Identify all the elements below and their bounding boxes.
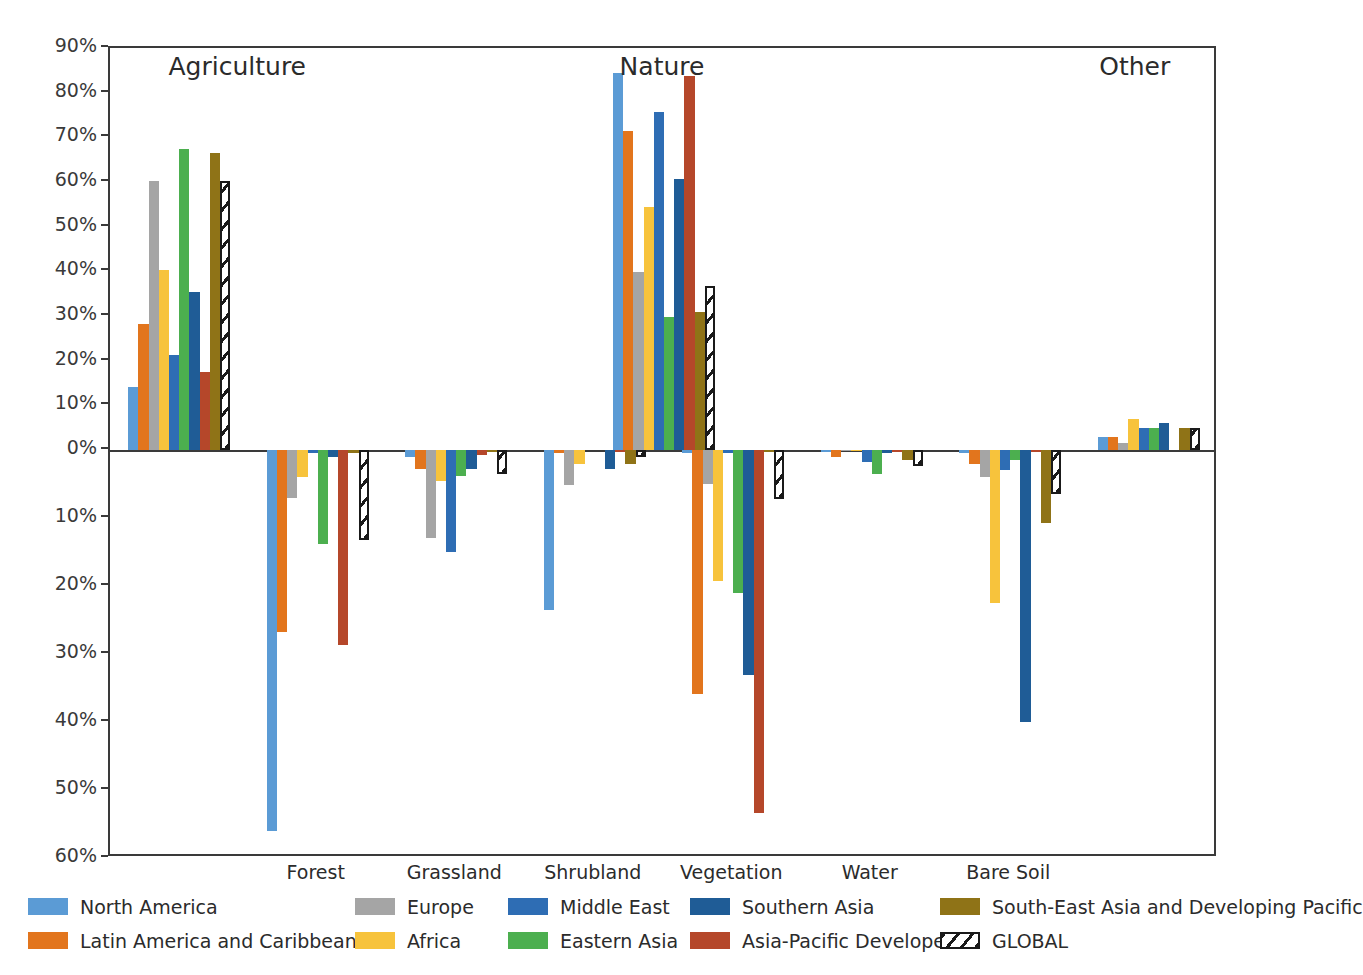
bar-shrubland-europe (564, 450, 574, 485)
bar-forest-asia-pacific-developed (338, 450, 348, 645)
legend-label: GLOBAL (992, 928, 1068, 954)
bar-water-southern-asia (882, 450, 892, 453)
y-tick-label-pos-80: 80% (55, 82, 108, 98)
bar-water-global (913, 450, 923, 466)
y-tick-label-pos-40: 40% (55, 260, 108, 276)
y-tick-mark-pos-10 (101, 402, 108, 404)
y-tick-label-pos-70: 70% (55, 126, 108, 142)
legend-swatch-icon (940, 898, 980, 915)
bar-grassland-africa (436, 450, 446, 481)
bar-agriculture-north-america (128, 387, 138, 450)
bar-nature-eastern-asia (664, 317, 674, 450)
bar-nature-north-america (613, 73, 623, 450)
bar-bare-soil-africa (990, 450, 1000, 603)
x-tick-label-shrubland: Shrubland (523, 861, 663, 883)
bar-nature-europe (633, 272, 643, 450)
y-axis: 0%10%20%30%40%50%60%70%80%90%10%20%30%40… (0, 0, 108, 975)
y-tick-mark-neg-20 (101, 583, 108, 585)
bar-nature-latin-america-and-caribbean (623, 131, 633, 450)
legend-swatch-icon (28, 898, 68, 915)
y-tick-label-pos-10: 10% (55, 394, 108, 410)
y-tick-mark-pos-20 (101, 358, 108, 360)
group-title-agriculture: Agriculture (117, 52, 357, 81)
y-tick-mark-pos-90 (101, 45, 108, 47)
legend-swatch-icon (940, 932, 980, 949)
bar-vegetation-asia-pacific-developed (754, 450, 764, 813)
y-tick-mark-pos-30 (101, 313, 108, 315)
y-tick-mark-neg-60 (101, 855, 108, 857)
bar-vegetation-global (774, 450, 784, 499)
bar-shrubland-south-east-asia-and-developing-pacific (625, 450, 635, 464)
legend-label: Latin America and Caribbean (80, 928, 357, 954)
bar-nature-south-east-asia-and-developing-pacific (695, 312, 705, 450)
bar-vegetation-europe (703, 450, 713, 484)
bar-forest-north-america (267, 450, 277, 831)
y-tick-label-neg-40: 40% (55, 711, 108, 727)
bar-water-europe (841, 450, 851, 451)
bar-shrubland-north-america (544, 450, 554, 610)
bar-other-southern-asia (1159, 423, 1169, 450)
bar-water-eastern-asia (872, 450, 882, 474)
y-tick-label-neg-20: 20% (55, 575, 108, 591)
bar-vegetation-latin-america-and-caribbean (692, 450, 702, 694)
bar-agriculture-global (220, 181, 230, 450)
y-tick-mark-pos-80 (101, 90, 108, 92)
bar-grassland-middle-east (446, 450, 456, 552)
y-tick-mark-pos-50 (101, 224, 108, 226)
legend-swatch-icon (355, 898, 395, 915)
bar-forest-europe (287, 450, 297, 498)
y-tick-mark-pos-40 (101, 268, 108, 270)
y-tick-label-pos-60: 60% (55, 171, 108, 187)
bar-grassland-latin-america-and-caribbean (415, 450, 425, 469)
plot-area (108, 46, 1216, 856)
legend-swatch-icon (508, 898, 548, 915)
legend-swatch-icon (355, 932, 395, 949)
bar-bare-soil-global (1051, 450, 1061, 494)
bar-bare-soil-middle-east (1000, 450, 1010, 470)
bar-nature-africa (644, 207, 654, 450)
y-tick-label-neg-60: 60% (55, 847, 108, 863)
y-tick-label-pos-20: 20% (55, 350, 108, 366)
bar-grassland-south-east-asia-and-developing-pacific (487, 450, 497, 452)
bar-shrubland-africa (574, 450, 584, 464)
y-tick-mark-pos-70 (101, 134, 108, 136)
group-title-other: Other (1015, 52, 1255, 81)
bar-grassland-southern-asia (466, 450, 476, 469)
y-tick-mark-neg-40 (101, 719, 108, 721)
bar-shrubland-global (636, 450, 646, 457)
y-tick-mark-pos-60 (101, 179, 108, 181)
bar-other-middle-east (1139, 428, 1149, 450)
y-tick-mark-neg-50 (101, 787, 108, 789)
bar-other-global (1190, 428, 1200, 450)
bar-other-latin-america-and-caribbean (1108, 437, 1118, 450)
bar-agriculture-southern-asia (189, 292, 199, 450)
y-tick-label-neg-10: 10% (55, 507, 108, 523)
y-tick-label-pos-30: 30% (55, 305, 108, 321)
y-tick-label-pos-50: 50% (55, 216, 108, 232)
x-tick-label-forest: Forest (246, 861, 386, 883)
bar-nature-global (705, 286, 715, 450)
bar-bare-soil-south-east-asia-and-developing-pacific (1041, 450, 1051, 523)
bar-other-south-east-asia-and-developing-pacific (1179, 428, 1189, 450)
bar-forest-latin-america-and-caribbean (277, 450, 287, 632)
bar-bare-soil-europe (980, 450, 990, 477)
legend-label: Europe (407, 894, 474, 920)
bar-water-africa (851, 450, 861, 451)
legend-label: Eastern Asia (560, 928, 678, 954)
bar-agriculture-asia-pacific-developed (200, 372, 210, 450)
y-tick-label-pos-90: 90% (55, 37, 108, 53)
legend-label: North America (80, 894, 218, 920)
bar-grassland-europe (426, 450, 436, 538)
x-tick-label-water: Water (800, 861, 940, 883)
bar-other-africa (1128, 419, 1138, 450)
bar-bare-soil-asia-pacific-developed (1031, 450, 1041, 452)
bar-nature-middle-east (654, 112, 664, 450)
legend-label: Africa (407, 928, 461, 954)
bar-shrubland-asia-pacific-developed (615, 450, 625, 452)
bar-grassland-global (497, 450, 507, 474)
legend-label: South-East Asia and Developing Pacific (992, 894, 1363, 920)
bar-bare-soil-southern-asia (1020, 450, 1030, 722)
bar-vegetation-eastern-asia (733, 450, 743, 593)
legend-swatch-icon (690, 932, 730, 949)
